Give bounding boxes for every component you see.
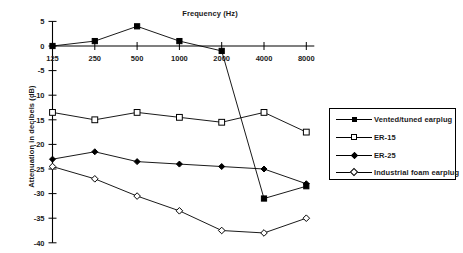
data-point-marker	[261, 196, 266, 201]
chart-legend: Vented/tuned earplug ER-15 ER-25 Industr…	[329, 108, 456, 180]
data-point-marker	[92, 38, 97, 43]
x-axis-tick-label: 125	[46, 54, 59, 63]
data-point-marker	[177, 114, 183, 120]
data-point-marker	[92, 149, 98, 155]
series-er-15	[50, 110, 310, 135]
data-point-marker	[303, 129, 309, 135]
y-axis-tick-label: -15	[34, 116, 45, 125]
legend-item-industrial-foam-earplug[interactable]: Industrial foam earplug	[330, 163, 457, 181]
data-point-marker	[92, 117, 98, 123]
data-point-marker	[219, 164, 225, 170]
data-point-marker	[177, 38, 182, 43]
y-axis-tick-label: -40	[34, 239, 45, 248]
x-axis-tick-label: 500	[131, 54, 144, 63]
legend-label: Industrial foam earplug	[374, 168, 459, 177]
data-point-marker	[134, 110, 140, 116]
series-er-25	[50, 149, 310, 187]
y-axis-tick-label: -5	[38, 66, 45, 75]
y-axis-tick-label: 0	[40, 42, 44, 51]
legend-swatch-square-open-icon	[334, 130, 374, 144]
legend-item-er-15[interactable]: ER-15	[330, 128, 457, 146]
legend-swatch-square-filled-icon	[334, 112, 374, 126]
legend-label: Vented/tuned earplug	[374, 115, 452, 124]
data-point-marker	[92, 176, 99, 183]
legend-label: ER-25	[374, 151, 396, 160]
data-point-marker	[219, 119, 225, 125]
data-point-marker	[135, 24, 140, 29]
series-industrial-foam-earplug	[49, 163, 309, 236]
data-point-marker	[261, 110, 267, 116]
x-axis-tick-label: 4000	[256, 54, 273, 63]
data-point-marker	[176, 161, 182, 167]
data-point-marker	[176, 208, 183, 215]
legend-item-vented-tuned-earplug[interactable]: Vented/tuned earplug	[330, 110, 457, 128]
y-axis-tick-label: -30	[34, 189, 45, 198]
legend-item-er-25[interactable]: ER-25	[330, 146, 457, 164]
data-point-marker	[218, 227, 225, 234]
legend-label: ER-15	[374, 133, 396, 142]
x-axis-tick-label: 1000	[171, 54, 188, 63]
data-point-marker	[261, 166, 267, 172]
y-axis-tick-label: -10	[34, 91, 45, 100]
x-axis-tick-label: 2000	[213, 54, 230, 63]
series-vented-tuned-earplug	[50, 24, 309, 201]
legend-swatch-diamond-filled-icon	[334, 148, 374, 162]
data-point-marker	[50, 156, 56, 162]
attenuation-chart: Frequency (Hz) Attenuation in decibels (…	[0, 0, 463, 253]
legend-swatch-diamond-open-icon	[334, 165, 374, 179]
data-point-marker	[261, 230, 268, 237]
x-axis-tick-label: 8000	[298, 54, 315, 63]
y-axis-tick-label: -25	[34, 165, 45, 174]
series-line	[53, 167, 307, 233]
y-axis-tick-label: -35	[34, 214, 45, 223]
data-point-marker	[303, 215, 310, 222]
data-point-marker	[50, 110, 56, 116]
x-axis-tick-label: 250	[89, 54, 102, 63]
y-axis-tick-label: -20	[34, 140, 45, 149]
y-axis-tick-label: 5	[40, 17, 44, 26]
data-point-marker	[219, 48, 224, 53]
data-point-marker	[134, 159, 140, 165]
data-point-marker	[134, 193, 141, 200]
data-point-marker	[50, 43, 55, 48]
series-line	[53, 26, 307, 198]
